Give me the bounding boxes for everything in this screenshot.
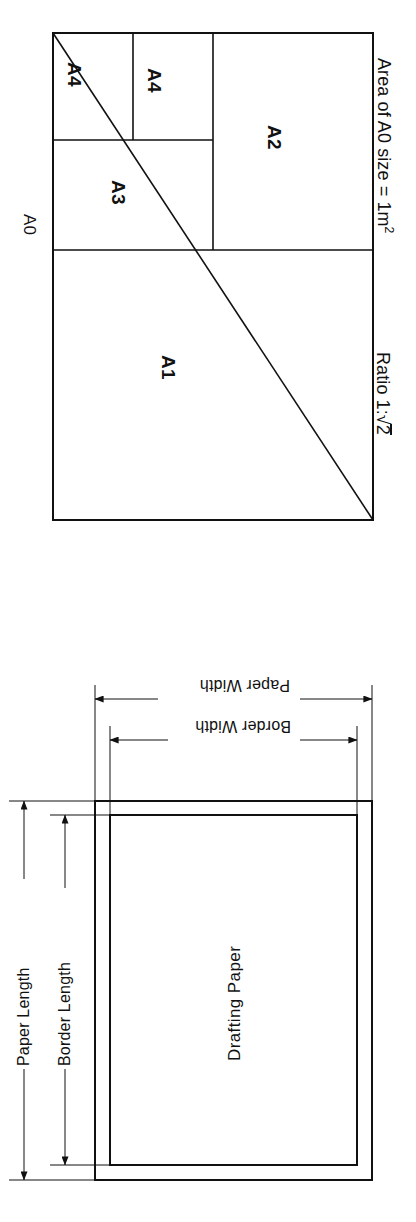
label-paper-width: Paper Width: [200, 677, 290, 693]
caption-ratio: Ratio 1:√2: [374, 352, 393, 435]
label-paper-length: Paper Length: [16, 968, 32, 1066]
figure-a-series-paper-sizes: A0 A1 A2 A3 A4 A4 Ratio 1:√2 Area of A0 …: [0, 0, 416, 611]
figure-drafting-sheet-borders: Paper Width Border Width Paper Length Bo…: [0, 611, 416, 1222]
label-a0: A0: [21, 214, 38, 235]
label-cell-a3: A3: [109, 180, 128, 205]
caption-area-exponent: 2: [382, 227, 396, 234]
label-cell-a2: A2: [265, 125, 284, 150]
label-border-width: Border Width: [195, 718, 291, 734]
caption-ratio-text: Ratio 1:: [373, 352, 393, 415]
label-cell-a4-lower: A4: [145, 68, 164, 93]
sqrt-symbol: √2: [374, 415, 393, 435]
caption-area-text: Area of A0 size = 1m: [374, 58, 394, 227]
drafting-sheet-linework: [0, 611, 416, 1222]
label-cell-a4-upper: A4: [65, 62, 84, 87]
a-series-linework: [0, 0, 416, 611]
label-cell-a1: A1: [159, 355, 178, 380]
label-drafting-paper: Drafting Paper: [226, 946, 243, 1061]
caption-area: Area of A0 size = 1m2: [375, 58, 393, 234]
label-border-length: Border Length: [57, 962, 73, 1066]
